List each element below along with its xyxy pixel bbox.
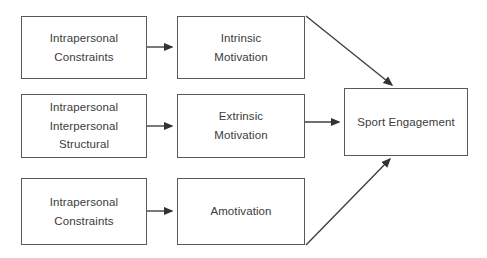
node-label-line: Constraints: [54, 212, 113, 231]
node-label-line: Intrapersonal: [50, 98, 118, 117]
node-label-line: Intrapersonal: [50, 29, 118, 48]
arrow-amotivation-to-engagement: [306, 159, 390, 245]
node-label-line: Amotivation: [210, 202, 271, 221]
node-extrinsic-motivation: Extrinsic Motivation: [177, 94, 305, 158]
node-intrapersonal-constraints-bottom: Intrapersonal Constraints: [21, 178, 147, 245]
arrow-intrinsic-to-engagement: [306, 16, 392, 85]
sport-engagement-diagram: Intrapersonal Constraints Intrapersonal …: [0, 0, 487, 258]
node-label-line: Motivation: [214, 48, 267, 67]
node-amotivation: Amotivation: [177, 178, 305, 245]
node-label-line: Motivation: [214, 126, 267, 145]
node-label-line: Constraints: [54, 48, 113, 67]
node-label-line: Sport Engagement: [357, 113, 455, 132]
node-intrinsic-motivation: Intrinsic Motivation: [177, 16, 305, 79]
node-label-line: Intrapersonal: [50, 193, 118, 212]
node-label-line: Extrinsic: [219, 107, 263, 126]
node-label-line: Interpersonal: [50, 117, 118, 136]
node-intrapersonal-interpersonal-structural: Intrapersonal Interpersonal Structural: [21, 94, 147, 158]
node-sport-engagement: Sport Engagement: [344, 88, 468, 156]
node-intrapersonal-constraints-top: Intrapersonal Constraints: [21, 16, 147, 79]
node-label-line: Structural: [59, 135, 109, 154]
node-label-line: Intrinsic: [221, 29, 262, 48]
